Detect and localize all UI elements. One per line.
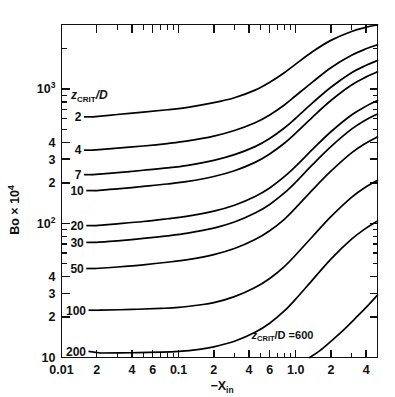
curve-20 xyxy=(95,101,377,226)
y-tick-label-3: 4 xyxy=(49,270,56,284)
x-tick-label-7: 6 xyxy=(266,363,273,377)
y-axis-tick-labels: 10234102234103 xyxy=(37,80,56,365)
curve-label-30: 30 xyxy=(70,236,84,250)
y-tick-label-1: 2 xyxy=(49,310,56,324)
x-tick-label-9: 2 xyxy=(327,363,334,377)
curve-50 xyxy=(95,137,377,269)
y-tick-label-4: 102 xyxy=(37,215,56,231)
curve-leader-200 xyxy=(89,351,101,353)
y-tick-label-8: 103 xyxy=(37,80,56,96)
x-tick-label-10: 4 xyxy=(363,363,370,377)
x-tick-label-5: 2 xyxy=(210,363,217,377)
curve-label-10: 10 xyxy=(70,184,84,198)
curve-label-20: 20 xyxy=(70,219,84,233)
figure-root: 0.012460.12461.024 10234102234103 247102… xyxy=(0,0,395,397)
plot-frame xyxy=(62,25,378,358)
curve-labels: 24710203050100200zCRIT/D =600 xyxy=(66,110,313,359)
x-tick-label-2: 4 xyxy=(129,363,136,377)
curve-label-200: 200 xyxy=(66,345,86,359)
curve-100 xyxy=(100,180,377,310)
curve-label-2: 2 xyxy=(75,110,82,124)
x-tick-label-6: 4 xyxy=(246,363,253,377)
y-tick-label-6: 3 xyxy=(49,153,56,167)
x-axis-tick-labels: 0.012460.12461.024 xyxy=(49,363,369,377)
curve-annotation-600: zCRIT/D =600 xyxy=(251,329,314,344)
curve-7 xyxy=(93,60,378,174)
y-axis-title: Bo × 104 xyxy=(6,185,22,235)
curve-label-100: 100 xyxy=(66,304,86,318)
curve-200 xyxy=(100,221,377,353)
curve-label-50: 50 xyxy=(70,262,84,276)
curve-10 xyxy=(95,72,377,191)
curve-family-key: zCRIT/D xyxy=(70,88,108,104)
x-tick-label-8: 1.0 xyxy=(287,363,304,377)
curve-2 xyxy=(93,25,378,117)
axis-box xyxy=(62,25,378,358)
x-tick-label-3: 6 xyxy=(149,363,156,377)
x-axis-ticks xyxy=(62,25,378,358)
curve-30 xyxy=(95,114,377,242)
curve-label-7: 7 xyxy=(75,168,82,182)
y-tick-label-7: 4 xyxy=(49,136,56,150)
x-axis-title: −Xin xyxy=(210,379,233,395)
x-tick-label-1: 2 xyxy=(93,363,100,377)
x-tick-label-4: 0.1 xyxy=(170,363,187,377)
y-tick-label-2: 3 xyxy=(49,287,56,301)
y-tick-label-0: 10 xyxy=(42,351,56,365)
y-axis-ticks xyxy=(62,25,378,358)
chart-canvas: 0.012460.12461.024 10234102234103 247102… xyxy=(0,0,395,397)
curve-600 xyxy=(310,295,378,357)
y-tick-label-5: 2 xyxy=(49,176,56,190)
curve-label-4: 4 xyxy=(75,143,82,157)
data-curves xyxy=(84,25,378,358)
